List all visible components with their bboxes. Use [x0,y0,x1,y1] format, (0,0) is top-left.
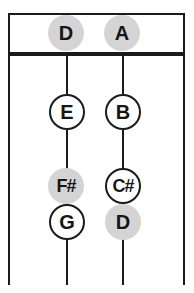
note-g: G [49,204,85,240]
note-c-sharp-label: C# [112,176,133,197]
fingerboard-right-edge [183,54,185,285]
note-b-label: B [116,101,130,124]
note-f-sharp-label: F# [56,176,75,197]
note-d-low-label: D [116,211,130,234]
note-f-sharp: F# [48,168,84,204]
note-open-a: A [104,15,140,51]
note-e-label: E [60,101,73,124]
note-c-sharp: C# [105,168,141,204]
note-open-d-label: D [59,22,73,45]
nut-box [8,13,185,56]
note-open-a-label: A [115,22,129,45]
fingerboard-left-edge [8,54,10,285]
note-e: E [49,94,85,130]
note-d-low: D [105,204,141,240]
note-b: B [105,94,141,130]
note-g-label: G [59,211,75,234]
note-open-d: D [48,15,84,51]
fingerboard-diagram: D A E F# G B C# D [0,0,194,293]
